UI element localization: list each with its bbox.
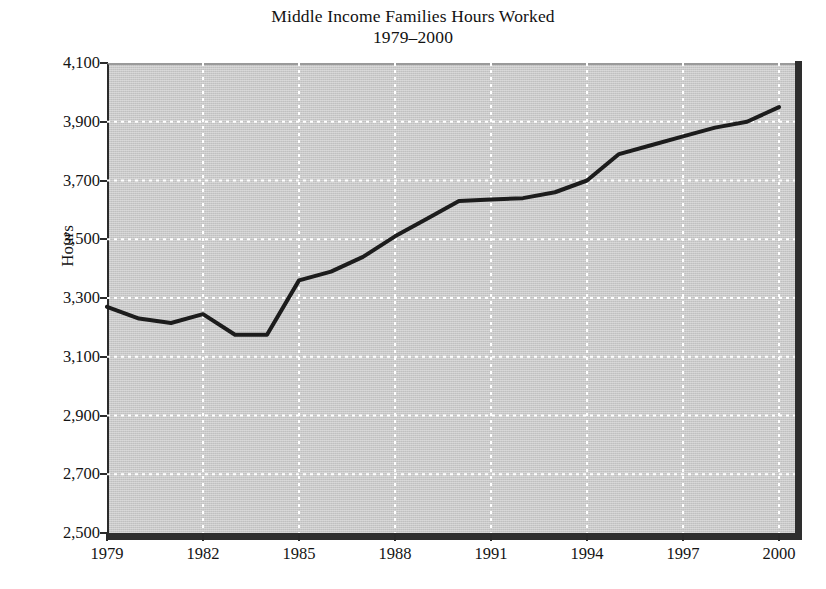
chart-figure: Middle Income Families Hours Worked 1979… [0, 0, 826, 589]
chart-title-block: Middle Income Families Hours Worked 1979… [0, 6, 826, 47]
plot-edge-bottom-shadow [107, 533, 802, 540]
x-axis-tick-mark [394, 533, 396, 541]
x-axis-tick-mark [490, 533, 492, 541]
x-axis-tick-mark [586, 533, 588, 541]
x-axis-tick-label: 1991 [451, 544, 531, 564]
x-axis-tick-mark [106, 533, 108, 541]
chart-subtitle: 1979–2000 [0, 27, 826, 48]
page-title: Middle Income Families Hours Worked [0, 6, 826, 27]
x-axis-tick-label: 1994 [547, 544, 627, 564]
y-axis-tick-marks [0, 63, 110, 533]
x-axis-tick-labels: 19791982198519881991199419972000 [107, 540, 795, 580]
plot-wrapper [107, 63, 795, 533]
x-axis-tick-label: 1979 [67, 544, 147, 564]
x-axis-tick-label: 1988 [355, 544, 435, 564]
data-series-line [107, 107, 779, 335]
x-axis-tick-label: 1997 [643, 544, 723, 564]
chart-plot-svg [107, 63, 795, 533]
plot-edge-right-shadow [795, 61, 802, 540]
x-axis-tick-label: 1982 [163, 544, 243, 564]
x-axis-tick-mark [298, 533, 300, 541]
x-axis-tick-label: 2000 [739, 544, 819, 564]
x-axis-tick-mark [778, 533, 780, 541]
x-axis-tick-mark [682, 533, 684, 541]
x-axis-tick-label: 1985 [259, 544, 339, 564]
x-axis-tick-mark [202, 533, 204, 541]
